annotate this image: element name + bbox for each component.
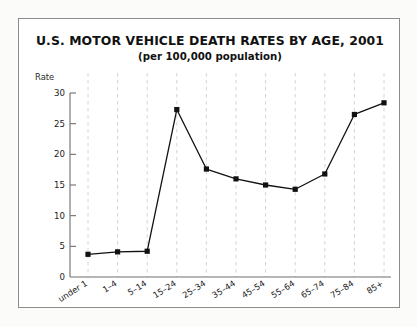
y-tick-label: 15	[54, 180, 65, 190]
y-tick-label: 20	[54, 149, 65, 159]
y-tick-label: 0	[60, 272, 65, 282]
x-tick-label: 85+	[365, 278, 385, 296]
data-point-marker	[381, 100, 386, 105]
data-point-marker	[115, 249, 120, 254]
x-tick-label: 45–54	[240, 278, 267, 300]
data-point-marker	[263, 182, 268, 187]
data-point-marker	[174, 107, 179, 112]
x-tick-label: 15–24	[151, 278, 178, 300]
y-tick-label: 25	[54, 119, 65, 129]
x-tick-label: 1–4	[101, 278, 119, 294]
y-tick-label: 10	[54, 211, 65, 221]
x-tick-label: 5–14	[126, 278, 148, 297]
y-tick-label: 30	[54, 88, 65, 98]
x-axis-labels: under 11–45–1415–2425–3435–4445–5455–646…	[56, 278, 385, 304]
data-point-marker	[322, 171, 327, 176]
data-point-marker	[145, 249, 150, 254]
x-tick-label: 35–44	[210, 278, 237, 300]
data-point-marker	[233, 176, 238, 181]
x-tick-label: 65–74	[299, 278, 326, 300]
data-point-marker	[352, 112, 357, 117]
gridlines	[88, 73, 384, 277]
chart-frame: U.S. MOTOR VEHICLE DEATH RATES BY AGE, 2…	[18, 18, 400, 308]
y-axis-ticks	[70, 93, 76, 246]
data-point-marker	[85, 252, 90, 257]
plot-area: 051015202530 under 11–45–1415–2425–3435–…	[19, 19, 401, 309]
x-tick-label: 55–64	[269, 278, 296, 300]
figure-page: U.S. MOTOR VEHICLE DEATH RATES BY AGE, 2…	[0, 0, 417, 327]
y-axis-labels: 051015202530	[54, 88, 65, 282]
data-point-marker	[293, 187, 298, 192]
x-tick-label: 75–84	[329, 278, 356, 300]
line-chart: 051015202530 under 11–45–1415–2425–3435–…	[19, 19, 401, 309]
data-point-marker	[204, 166, 209, 171]
y-tick-label: 5	[60, 241, 65, 251]
x-tick-label: 25–34	[181, 278, 208, 300]
